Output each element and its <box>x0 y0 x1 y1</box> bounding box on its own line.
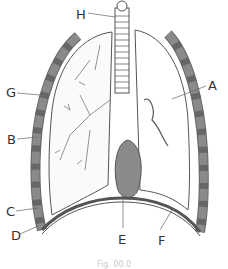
label-b: B <box>7 133 16 146</box>
label-e: E <box>118 233 126 246</box>
figure-caption: Fig. 00.0 <box>0 260 228 269</box>
label-f: F <box>158 234 165 247</box>
heart <box>115 140 141 198</box>
label-a: A <box>208 79 217 92</box>
label-d: D <box>11 229 21 242</box>
label-g: G <box>6 86 16 99</box>
label-c: C <box>6 205 15 218</box>
label-h: H <box>76 8 86 21</box>
trachea <box>115 1 129 93</box>
